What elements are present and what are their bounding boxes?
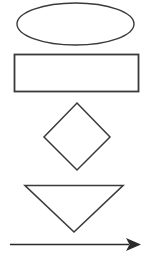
canvas-background <box>0 0 151 259</box>
shapes-canvas <box>0 0 151 259</box>
flowchart-shapes-svg <box>0 0 151 259</box>
